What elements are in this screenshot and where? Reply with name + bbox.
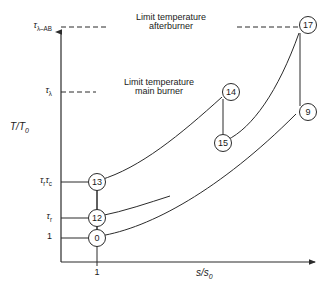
afterburner-limit-annotation: Limit temperature afterburner — [108, 13, 234, 32]
station-label-12: 12 — [88, 209, 106, 227]
y-tick-label-tau-lambda: τλ — [8, 86, 52, 97]
curve-fan-stub-from-12 — [100, 196, 170, 216]
y-tick-label-tau-r: τr — [8, 212, 52, 223]
afterburner-limit-line2: afterburner — [108, 22, 234, 31]
x-axis-title: s/s0 — [196, 268, 213, 280]
station-label-13: 13 — [88, 173, 106, 191]
y-tick-label-tau-lambda-ab: τλ–AB — [8, 21, 52, 32]
main-burner-limit-annotation: Limit temperature main burner — [96, 78, 222, 97]
station-label-14: 14 — [222, 83, 240, 101]
station-label-0: 0 — [88, 229, 106, 247]
curve-0-to-9 — [100, 114, 296, 236]
ts-diagram-canvas — [0, 0, 329, 295]
ts-diagram-figure: τλ–AB τλ τrτc τr 1 1 T/T0 s/s0 Limit tem… — [0, 0, 329, 295]
y-tick-label-tau-r-tau-c: τrτc — [8, 176, 52, 187]
y-tick-label-one: 1 — [8, 232, 52, 241]
main-burner-limit-line2: main burner — [96, 87, 222, 96]
station-label-9: 9 — [299, 103, 317, 121]
station-label-15: 15 — [214, 134, 232, 152]
y-axis-title: T/T0 — [10, 122, 29, 134]
station-label-17: 17 — [299, 16, 317, 34]
curve-13-to-14 — [100, 97, 222, 180]
x-tick-label-one: 1 — [83, 268, 111, 277]
